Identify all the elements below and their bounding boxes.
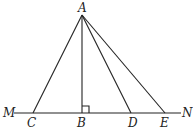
label-N: N: [181, 106, 193, 120]
segment-AC: [33, 15, 82, 113]
label-M: M: [2, 106, 16, 120]
label-D: D: [127, 116, 138, 130]
label-C: C: [27, 116, 36, 130]
label-B: B: [76, 116, 86, 130]
right-angle-marker: [82, 106, 89, 113]
label-A: A: [77, 1, 87, 15]
label-E: E: [159, 116, 169, 130]
geometry-diagram: A M C B D E N: [0, 0, 193, 139]
